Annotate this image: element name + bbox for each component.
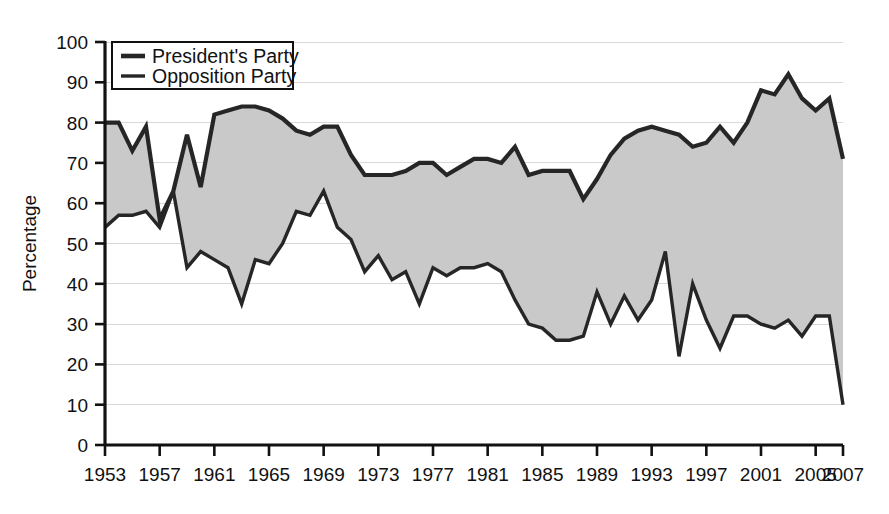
x-tick-label-1957: 1957 — [139, 464, 181, 485]
x-tick-label-1989: 1989 — [576, 464, 618, 485]
y-tick-label-80: 80 — [67, 113, 88, 134]
fill-between-series — [105, 74, 843, 404]
y-tick-label-60: 60 — [67, 193, 88, 214]
x-tick-label-1985: 1985 — [521, 464, 563, 485]
legend-label-0: President's Party — [152, 45, 299, 67]
x-tick-label-2001: 2001 — [740, 464, 782, 485]
y-tick-label-50: 50 — [67, 234, 88, 255]
x-tick-label-1965: 1965 — [248, 464, 290, 485]
y-tick-label-20: 20 — [67, 354, 88, 375]
x-tick-label-1997: 1997 — [685, 464, 727, 485]
y-axis-label-text: Percentage — [19, 195, 40, 292]
x-tick-labels: 1953195719611965196919731977198119851989… — [84, 464, 864, 485]
chart-legend: President's PartyOpposition Party — [112, 42, 299, 89]
x-tick-label-1973: 1973 — [357, 464, 399, 485]
series-fill-between — [105, 74, 843, 404]
y-tick-label-90: 90 — [67, 72, 88, 93]
x-tick-label-1961: 1961 — [193, 464, 235, 485]
x-tick-label-2007: 2007 — [822, 464, 864, 485]
y-axis-label: Percentage — [19, 195, 40, 292]
x-tick-label-1977: 1977 — [412, 464, 454, 485]
x-tick-label-1981: 1981 — [467, 464, 509, 485]
y-tick-label-100: 100 — [56, 32, 88, 53]
y-tick-label-0: 0 — [77, 435, 88, 456]
y-tick-label-10: 10 — [67, 395, 88, 416]
chart-plot-area: 0102030405060708090100 19531957196119651… — [0, 0, 889, 514]
y-tick-label-70: 70 — [67, 153, 88, 174]
x-tick-label-1993: 1993 — [631, 464, 673, 485]
legend-label-1: Opposition Party — [152, 65, 296, 87]
chart-figure: 0102030405060708090100 19531957196119651… — [0, 0, 889, 514]
x-tick-label-1953: 1953 — [84, 464, 126, 485]
x-tick-label-1969: 1969 — [303, 464, 345, 485]
y-tick-labels: 0102030405060708090100 — [56, 32, 88, 456]
y-tick-label-30: 30 — [67, 314, 88, 335]
y-tick-label-40: 40 — [67, 274, 88, 295]
